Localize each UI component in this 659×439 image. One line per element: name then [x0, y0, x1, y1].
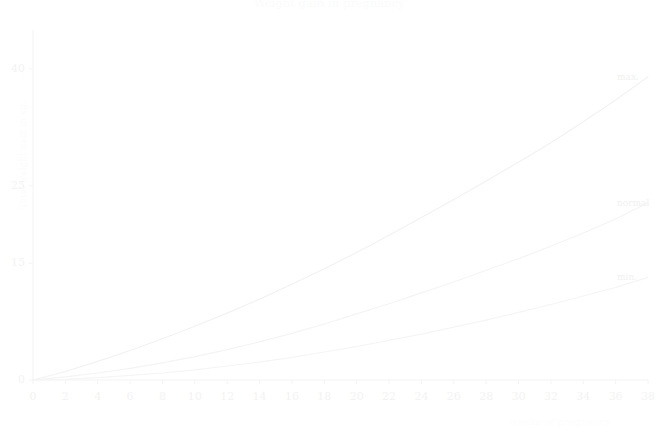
x-tick-label: 38 [638, 391, 658, 402]
x-tick-label: 28 [476, 391, 496, 402]
chart-canvas: Weight gain in pregnancy Total weight ga… [0, 0, 659, 439]
x-tick-label: 0 [23, 391, 43, 402]
series-curves [33, 77, 648, 380]
plot-area [0, 0, 659, 439]
x-tick-label: 16 [282, 391, 302, 402]
x-tick-label: 30 [509, 391, 529, 402]
series-label-normal: normal [617, 198, 649, 208]
x-tick-label: 4 [88, 391, 108, 402]
x-tick-label: 12 [217, 391, 237, 402]
x-tick-label: 2 [55, 391, 75, 402]
x-tick-label: 6 [120, 391, 140, 402]
series-label-min: min. [617, 272, 637, 282]
series-line-max [33, 77, 648, 380]
x-tick-label: 10 [185, 391, 205, 402]
y-tick-label: 40 [0, 63, 25, 74]
x-tick-label: 26 [444, 391, 464, 402]
x-tick-label: 14 [250, 391, 270, 402]
x-tick-label: 32 [541, 391, 561, 402]
series-line-min [33, 277, 648, 380]
series-line-normal [33, 203, 648, 380]
tick-marks [29, 69, 648, 384]
x-tick-label: 8 [152, 391, 172, 402]
x-tick-label: 24 [411, 391, 431, 402]
series-label-max: max. [617, 72, 639, 82]
x-tick-label: 36 [606, 391, 626, 402]
x-tick-label: 20 [347, 391, 367, 402]
x-tick-label: 18 [314, 391, 334, 402]
y-tick-label: 15 [0, 257, 25, 268]
y-tick-label: 25 [0, 180, 25, 191]
x-tick-label: 34 [573, 391, 593, 402]
y-tick-label: 0 [0, 374, 25, 385]
x-tick-label: 22 [379, 391, 399, 402]
